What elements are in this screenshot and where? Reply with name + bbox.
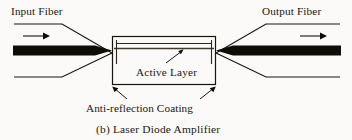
output-fiber-core (216, 46, 341, 56)
figure-container: Input Fiber Active Layer (0, 0, 352, 140)
amplifier-chip-group: Active Layer (113, 37, 216, 85)
input-fiber-group: Input Fiber (11, 5, 112, 77)
input-fiber-label: Input Fiber (11, 5, 63, 17)
output-fiber-group: Output Fiber (216, 5, 341, 77)
input-fiber-cladding-bottom (14, 53, 112, 77)
output-fiber-label: Output Fiber (262, 5, 321, 17)
ar-coating-leader-left (112, 86, 127, 99)
input-fiber-core (13, 46, 112, 56)
ar-coating-leader-right (200, 86, 216, 99)
active-layer-leader (166, 49, 184, 63)
ar-coating-callout: Anti-reflection Coating (86, 86, 216, 114)
output-propagation-arrow-icon (300, 32, 327, 39)
laser-diode-amplifier-diagram: Input Fiber Active Layer (0, 0, 352, 140)
anti-reflection-coating-label: Anti-reflection Coating (86, 102, 193, 114)
figure-caption: (b) Laser Diode Amplifier (96, 123, 220, 136)
output-fiber-cladding-bottom (216, 53, 340, 77)
input-propagation-arrow-icon (23, 32, 50, 39)
active-layer-label: Active Layer (136, 66, 197, 78)
